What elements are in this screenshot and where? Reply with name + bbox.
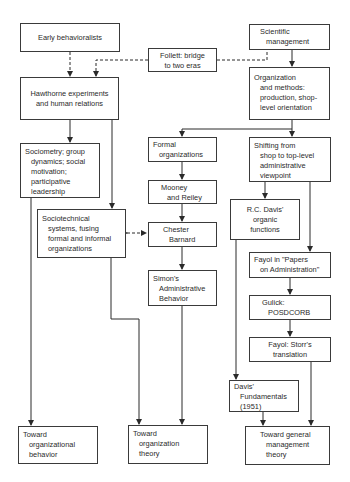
node-gulick: Gulick: POSDCORB	[249, 295, 331, 320]
node-toward-general-management: Toward general management theory	[245, 426, 330, 465]
node-hawthorne: Hawthorne experiments and human relation…	[20, 77, 119, 120]
node-mooney-reiley: Mooney and Reiley	[148, 180, 217, 204]
node-toward-organization-theory: Toward organization theory	[128, 425, 208, 464]
node-toward-organizational-behavior: Toward organizational behavior	[18, 426, 98, 464]
node-sociotechnical: Sociotechnical systems, fusing formal an…	[37, 209, 126, 258]
node-simon: Simon's Administrative Behavior	[148, 270, 217, 306]
node-formal-organizations: Formal organizations	[148, 137, 217, 162]
node-davis-fundamentals: Davis' Fundamentals (1951)	[229, 380, 299, 412]
node-shifting: Shifting from shop to top-level administ…	[249, 137, 331, 182]
node-fayol-storr: Fayol: Storr's translation	[249, 337, 331, 362]
node-follett: Follett: bridge to two eras	[148, 48, 217, 72]
node-organization-methods: Organization and methods: production, sh…	[249, 67, 330, 120]
node-scientific-management: Scientific management	[249, 24, 330, 50]
node-early-behavioralists: Early behavioralists	[20, 23, 120, 52]
node-chester-barnard: Chester Barnard	[148, 222, 217, 247]
node-fayol-papers: Fayol in "Papers on Administration"	[249, 252, 331, 278]
node-rc-davis: R.C. Davis' organic functions	[230, 199, 300, 240]
node-sociometry: Sociometry; group dynamics; social motiv…	[20, 143, 100, 198]
